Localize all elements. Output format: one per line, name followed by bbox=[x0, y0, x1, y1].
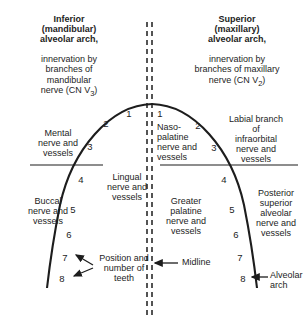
right-tooth-8: 8 bbox=[238, 273, 248, 284]
right-tooth-2: 2 bbox=[193, 120, 203, 131]
alveolar-arch-label: Alveolar arch bbox=[270, 270, 304, 290]
midline-label: Midline bbox=[182, 257, 234, 267]
right-tooth-6: 6 bbox=[231, 229, 241, 240]
left-tooth-5: 5 bbox=[68, 204, 78, 215]
left-tooth-8: 8 bbox=[57, 273, 67, 284]
left-tooth-1: 1 bbox=[124, 108, 134, 119]
lingual-nerve-label: Lingual nerve and vessels bbox=[98, 172, 156, 202]
labial-infraorbital-label: Labial branch of infraorbital nerve and … bbox=[213, 114, 299, 164]
right-tooth-1: 1 bbox=[155, 108, 165, 119]
position-number-teeth-label: Position and number of teeth bbox=[88, 253, 160, 283]
posterior-superior-alveolar-label: Posterior superior alveolar nerve and ve… bbox=[248, 188, 304, 238]
right-tooth-5: 5 bbox=[227, 204, 237, 215]
alveolar-arch-diagram: Inferior (mandibular) alveolar arch, inn… bbox=[0, 0, 304, 320]
left-tooth-7: 7 bbox=[60, 252, 70, 263]
left-tooth-4: 4 bbox=[76, 174, 86, 185]
nasopalatine-nerve-label: Naso- palatine nerve and vessels bbox=[157, 122, 213, 162]
left-tooth-2: 2 bbox=[101, 118, 111, 129]
right-tooth-4: 4 bbox=[219, 174, 229, 185]
right-tooth-7: 7 bbox=[235, 252, 245, 263]
left-tooth-6: 6 bbox=[64, 229, 74, 240]
greater-palatine-nerve-label: Greater palatine nerve and vessels bbox=[155, 196, 217, 236]
left-tooth-3: 3 bbox=[85, 141, 95, 152]
right-tooth-3: 3 bbox=[209, 142, 219, 153]
